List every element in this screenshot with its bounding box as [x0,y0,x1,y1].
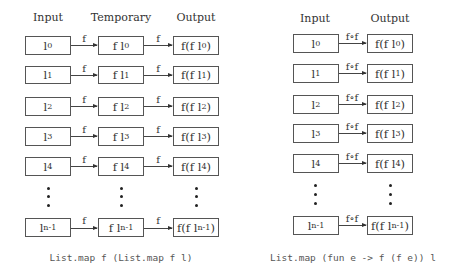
subscript: 2 [315,100,320,109]
ellipsis-dot-icon [47,195,50,198]
output-label: f(f l [371,219,391,233]
output-label: f(f l [181,160,201,174]
arrow-icon [144,45,172,46]
subscript: n-1 [43,223,56,232]
output-label: f(f l [181,100,201,114]
subscript: 0 [124,41,129,50]
input-box: l3 [25,127,71,146]
temp-label: f l [113,130,125,144]
subscript: 0 [315,39,320,48]
right-header-output: Output [370,12,409,25]
ellipsis-dot-icon [47,204,50,207]
output-close: ) [400,98,405,112]
ellipsis-dot-icon [389,184,392,187]
arrow-label: f [156,63,160,74]
input-box: l2 [293,95,339,114]
left-header-input: Input [33,11,63,24]
arrow-icon [71,75,97,76]
input-box: l1 [25,66,71,84]
arrow-icon [339,73,366,74]
arrow-label: f [156,33,160,44]
subscript: 3 [315,129,320,138]
arrow-icon [339,43,366,44]
arrow-label: f∘f [346,92,358,103]
subscript: 0 [47,41,52,50]
ellipsis-dot-icon [314,202,317,205]
left-header-output: Output [176,11,215,24]
output-label: f(f l [181,130,201,144]
subscript: 4 [124,162,129,171]
temp-box: f l4 [98,157,144,176]
arrow-icon [71,166,97,167]
output-box: f(f ln-1) [367,216,413,235]
subscript: n-1 [197,223,210,232]
subscript: n-1 [391,221,404,230]
output-close: ) [404,219,409,233]
arrow-icon [71,228,97,229]
temp-label: f l [109,221,121,235]
arrow-icon [71,136,97,137]
ellipsis-dot-icon [314,184,317,187]
temp-box: f l1 [98,66,144,84]
arrow-icon [71,45,97,46]
arrow-label: f [156,124,160,135]
arrow-icon [339,104,366,105]
arrow-label: f [156,215,160,226]
arrow-label: f [82,154,86,165]
output-box: f(f l0) [173,36,219,55]
output-close: ) [206,39,211,53]
subscript: 3 [47,132,52,141]
output-label: f(f l [181,68,201,82]
arrow-icon [339,163,366,164]
output-box: f(f l4) [173,157,219,176]
arrow-label: f [82,33,86,44]
input-box: l0 [25,36,71,55]
output-box: f(f l3) [173,127,219,146]
temp-label: f l [113,39,125,53]
ellipsis-dot-icon [120,195,123,198]
ellipsis-dot-icon [389,193,392,196]
ellipsis-dot-icon [389,202,392,205]
output-box: f(f l3) [367,124,413,143]
output-label: f(f l [375,67,395,81]
input-box: l2 [25,97,71,116]
input-box: l0 [293,34,339,53]
arrow-label: f∘f [346,61,358,72]
temp-box: f l2 [98,97,144,116]
arrow-icon [144,106,172,107]
arrow-label: f∘f [346,213,358,224]
arrow-icon [71,106,97,107]
input-box: l4 [293,154,339,173]
output-close: ) [206,100,211,114]
output-close: ) [400,37,405,51]
arrow-icon [144,75,172,76]
output-close: ) [400,127,405,141]
output-box: f(f l1) [367,64,413,83]
input-box: l4 [25,157,71,176]
output-close: ) [206,68,211,82]
temp-label: f l [113,160,125,174]
arrow-label: f∘f [346,151,358,162]
ellipsis-dot-icon [120,187,123,190]
output-close: ) [210,221,215,235]
temp-box: f l0 [98,36,144,55]
temp-box: f ln-1 [98,218,144,237]
arrow-label: f [82,124,86,135]
output-label: f(f l [375,127,395,141]
input-box: l1 [293,64,339,83]
subscript: 1 [124,71,129,80]
arrow-icon [144,228,172,229]
output-label: f(f l [177,221,197,235]
output-box: f(f l0) [367,34,413,53]
arrow-label: f [82,215,86,226]
subscript: n-1 [120,223,133,232]
output-box: f(f l2) [367,95,413,114]
left-caption: List.map f (List.map f l) [50,252,193,263]
output-close: ) [206,130,211,144]
subscript: 4 [315,159,320,168]
output-label: f(f l [181,39,201,53]
output-close: ) [400,67,405,81]
arrow-icon [144,136,172,137]
temp-label: f l [113,68,125,82]
output-label: f(f l [375,37,395,51]
